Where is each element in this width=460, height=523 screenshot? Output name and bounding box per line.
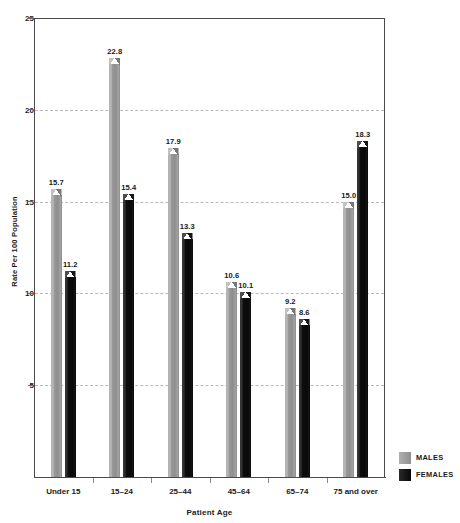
bar-males[interactable]: [51, 189, 62, 477]
bar-top-facet: [240, 292, 251, 300]
bar-value-label: 15.7: [49, 178, 64, 187]
bar-body: [226, 288, 237, 477]
y-axis-tick-mark: [28, 201, 33, 202]
bar-females[interactable]: [357, 141, 368, 477]
bar-value-label: 10.1: [238, 281, 253, 290]
bar-value-label: 9.2: [285, 297, 296, 306]
bar-females[interactable]: [123, 194, 134, 477]
x-axis-tick-mark: [93, 478, 94, 483]
x-axis-tick-mark: [151, 478, 152, 483]
bar-value-label: 13.3: [180, 222, 195, 231]
bar-top-facet: [109, 58, 120, 66]
bar-body: [299, 325, 310, 477]
y-axis-tick-mark: [28, 109, 33, 110]
bar-top-facet: [343, 202, 354, 210]
legend-swatch-males: [399, 452, 411, 464]
bar-females[interactable]: [182, 233, 193, 477]
bar-body: [123, 200, 134, 477]
bar-top-facet: [123, 194, 134, 202]
x-axis-tick-label: 75 and over: [334, 487, 378, 496]
bar-value-label: 8.6: [299, 308, 310, 317]
bar-body: [51, 195, 62, 477]
bar-body: [285, 314, 296, 477]
y-axis: 510152025: [0, 0, 34, 523]
bar-top-facet: [285, 308, 296, 316]
bar-males[interactable]: [343, 202, 354, 477]
bar-body: [168, 154, 179, 477]
y-axis-tick-mark: [28, 385, 33, 386]
bar-top-facet: [182, 233, 193, 241]
bar-value-label: 10.6: [224, 271, 239, 280]
bar-body: [65, 277, 76, 477]
legend-swatch-females: [399, 469, 411, 481]
bar-top-facet: [357, 141, 368, 149]
bar-top-facet: [299, 319, 310, 327]
bar-top-facet: [51, 189, 62, 197]
legend-item-females[interactable]: FEMALES: [399, 466, 453, 483]
bar-males[interactable]: [285, 308, 296, 477]
bar-top-facet: [65, 271, 76, 279]
x-axis-tick-label: 45–64: [228, 487, 250, 496]
legend: MALES FEMALES: [399, 449, 453, 483]
bar-top-facet: [226, 282, 237, 290]
bar-value-label: 15.0: [341, 191, 356, 200]
legend-label-females: FEMALES: [416, 470, 453, 479]
chart-canvas: Rate Per 100 Population 510152025 15.711…: [0, 0, 460, 523]
bar-value-label: 17.9: [166, 137, 181, 146]
x-axis-tick-mark: [210, 478, 211, 483]
x-axis-tick-label: Under 15: [46, 487, 80, 496]
bar-body: [109, 64, 120, 477]
x-axis-tick-label: 65–74: [286, 487, 308, 496]
bar-body: [357, 147, 368, 477]
legend-label-males: MALES: [416, 453, 443, 462]
y-axis-tick-mark: [28, 17, 33, 18]
bar-body: [343, 208, 354, 477]
bar-value-label: 18.3: [355, 130, 370, 139]
bar-top-facet: [168, 148, 179, 156]
x-axis-tick-mark: [327, 478, 328, 483]
bar-series-layer: 15.711.222.815.417.913.310.610.19.28.615…: [34, 18, 385, 477]
bar-males[interactable]: [168, 148, 179, 477]
bar-body: [240, 298, 251, 477]
bar-males[interactable]: [226, 282, 237, 477]
x-axis-tick-label: 15–24: [111, 487, 133, 496]
bar-value-label: 22.8: [107, 47, 122, 56]
x-axis-tick-mark: [268, 478, 269, 483]
bar-body: [182, 239, 193, 477]
bar-value-label: 15.4: [121, 183, 136, 192]
bar-females[interactable]: [299, 319, 310, 477]
x-axis-tick-label: 25–44: [169, 487, 191, 496]
bar-value-label: 11.2: [63, 260, 77, 269]
bar-females[interactable]: [65, 271, 76, 477]
y-axis-tick-mark: [28, 293, 33, 294]
bar-males[interactable]: [109, 58, 120, 477]
x-axis-title: Patient Age: [34, 508, 385, 517]
bar-females[interactable]: [240, 292, 251, 477]
legend-item-males[interactable]: MALES: [399, 449, 453, 466]
